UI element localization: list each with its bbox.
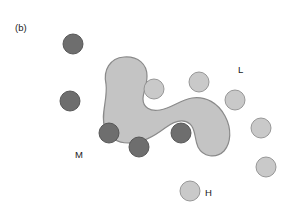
data-point-light — [251, 118, 271, 138]
data-point-dark — [129, 137, 149, 157]
annotation-label-h: H — [205, 187, 212, 198]
annotation-label-l: L — [238, 64, 243, 75]
data-point-light — [144, 79, 164, 99]
plot-background — [0, 0, 293, 212]
figure-panel-b: (b) MLH — [0, 0, 293, 212]
data-point-light — [189, 72, 209, 92]
panel-label: (b) — [15, 22, 27, 33]
data-point-dark — [171, 123, 191, 143]
data-point-dark — [60, 91, 80, 111]
data-point-light — [180, 181, 200, 201]
scatter-plot-canvas: (b) MLH — [0, 0, 293, 212]
data-point-dark — [99, 123, 119, 143]
data-point-dark — [63, 34, 83, 54]
data-point-light — [225, 90, 245, 110]
data-point-light — [256, 157, 276, 177]
annotation-label-m: M — [75, 149, 83, 160]
